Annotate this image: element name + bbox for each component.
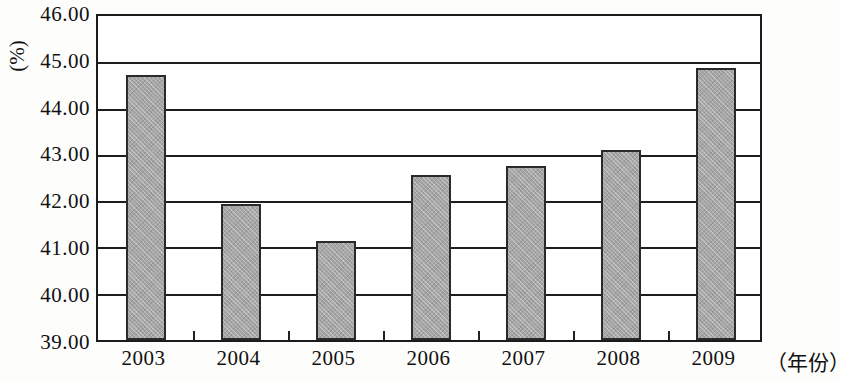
y-tick-label: 43.00: [4, 144, 90, 165]
bar-2007: [506, 166, 546, 340]
bar-2003: [126, 75, 166, 340]
bar-2009: [696, 68, 736, 340]
bar-2008: [601, 150, 641, 340]
x-axis-tick: [383, 331, 385, 340]
x-axis-tick: [193, 331, 195, 340]
y-tick-label: 39.00: [4, 332, 90, 353]
plot-area: [96, 14, 762, 342]
x-axis-tick: [288, 331, 290, 340]
y-tick-label: 40.00: [4, 285, 90, 306]
x-tick-label-2008: 2008: [571, 348, 666, 369]
x-tick-label-2003: 2003: [96, 348, 191, 369]
y-tick-label: 42.00: [4, 191, 90, 212]
y-tick-label: 45.00: [4, 51, 90, 72]
x-axis-tick: [668, 331, 670, 340]
x-tick-label-2006: 2006: [381, 348, 476, 369]
x-tick-label-2007: 2007: [476, 348, 571, 369]
x-axis-title: （年份）: [766, 346, 841, 376]
x-axis-tick: [478, 331, 480, 340]
bars-layer: [98, 16, 760, 340]
y-tick-label: 46.00: [4, 4, 90, 25]
x-tick-label-2009: 2009: [666, 348, 761, 369]
bar-2005: [316, 241, 356, 341]
bar-2006: [411, 175, 451, 340]
y-tick-label: 41.00: [4, 238, 90, 259]
x-tick-label-2005: 2005: [286, 348, 381, 369]
x-axis-tick: [573, 331, 575, 340]
bar-2004: [221, 204, 261, 340]
x-tick-label-2004: 2004: [191, 348, 286, 369]
y-axis-tick-labels: 46.00 45.00 44.00 43.00 42.00 41.00 40.0…: [0, 0, 90, 382]
y-tick-label: 44.00: [4, 98, 90, 119]
